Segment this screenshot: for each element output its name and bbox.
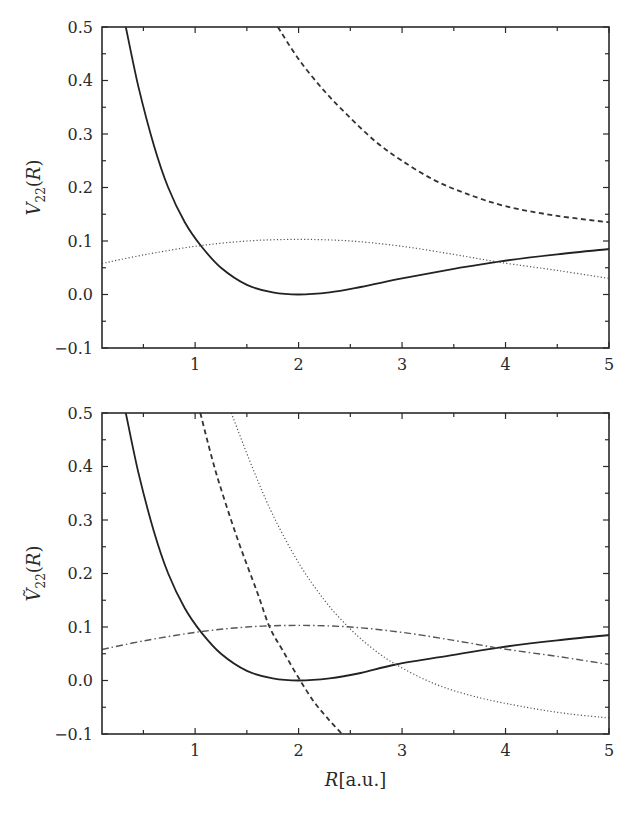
y-tick-label: 0.4	[68, 457, 93, 476]
x-tick-label: 4	[500, 355, 510, 374]
curve-dotted	[102, 239, 609, 278]
x-tick-label: 3	[397, 741, 407, 760]
curve-dashed	[200, 413, 342, 734]
y-tick-label: 0.0	[68, 285, 93, 304]
y-tick-label: 0.2	[68, 564, 93, 583]
y-tick-label: 0.3	[68, 125, 93, 144]
y-tick-label: 0.1	[68, 618, 93, 637]
y-tick-label: 0.5	[68, 18, 93, 37]
curve-solid	[126, 27, 609, 295]
y-tick-label: −0.1	[54, 725, 93, 744]
y-axis-label: V22(R)	[23, 160, 48, 216]
x-tick-label: 3	[397, 355, 407, 374]
top-panel-v22: 12345−0.10.00.10.20.30.40.5V22(R)	[23, 18, 614, 375]
y-axis-label: Ṽ22(R)	[23, 546, 48, 602]
y-tick-label: 0.2	[68, 178, 93, 197]
y-tick-label: −0.1	[54, 339, 93, 358]
y-tick-label: 0.0	[68, 671, 93, 690]
plot-frame	[102, 27, 609, 348]
x-tick-label: 1	[190, 355, 200, 374]
curve-dashed	[278, 27, 609, 222]
curve-dash-dot	[102, 625, 609, 664]
y-tick-label: 0.3	[68, 511, 93, 530]
curve-dotted	[231, 413, 609, 718]
plot-frame	[102, 413, 609, 734]
ticks	[102, 413, 609, 734]
y-tick-label: 0.4	[68, 71, 93, 90]
series-group	[102, 413, 609, 734]
series-group	[102, 27, 609, 295]
x-tick-label: 1	[190, 741, 200, 760]
curve-solid	[126, 413, 609, 681]
x-tick-label: 4	[500, 741, 510, 760]
x-tick-label: 5	[604, 355, 614, 374]
figure: 12345−0.10.00.10.20.30.40.5V22(R) 12345−…	[0, 0, 629, 821]
y-tick-label: 0.1	[68, 232, 93, 251]
y-tick-label: 0.5	[68, 404, 93, 423]
x-tick-label: 2	[293, 741, 303, 760]
bottom-panel-v22-tilde: 12345−0.10.00.10.20.30.40.5Ṽ22(R)R[a.u.…	[23, 404, 614, 791]
ticks	[102, 27, 609, 348]
x-tick-label: 2	[293, 355, 303, 374]
x-tick-label: 5	[604, 741, 614, 760]
x-axis-label: R[a.u.]	[324, 769, 386, 790]
